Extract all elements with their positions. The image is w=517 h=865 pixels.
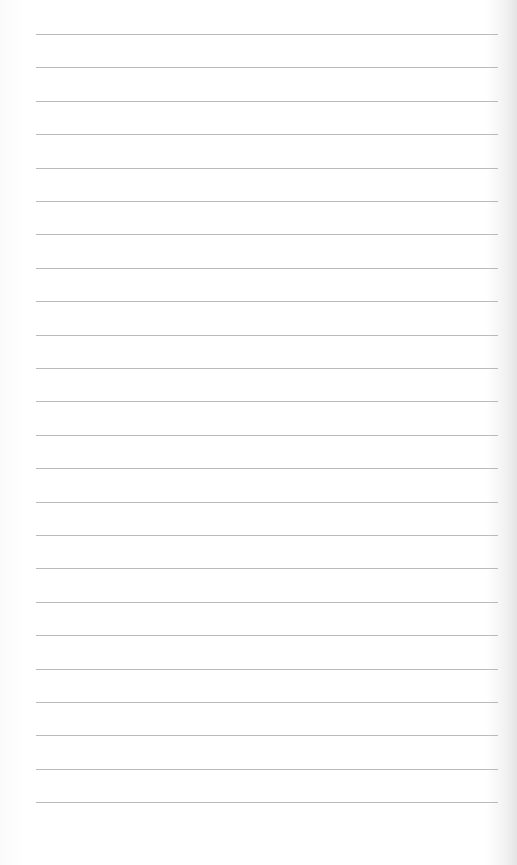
ruled-line	[36, 368, 498, 369]
ruled-line	[36, 669, 498, 670]
ruled-line	[36, 101, 498, 102]
ruled-line	[36, 67, 498, 68]
ruled-line	[36, 602, 498, 603]
ruled-line	[36, 134, 498, 135]
ruled-line	[36, 635, 498, 636]
ruled-line	[36, 502, 498, 503]
lined-paper	[0, 0, 517, 865]
ruled-line	[36, 769, 498, 770]
ruled-line	[36, 802, 498, 803]
ruled-line	[36, 234, 498, 235]
ruled-line	[36, 401, 498, 402]
ruled-line	[36, 468, 498, 469]
ruled-line	[36, 535, 498, 536]
ruled-line	[36, 335, 498, 336]
ruled-line	[36, 168, 498, 169]
ruled-line	[36, 301, 498, 302]
ruled-line	[36, 702, 498, 703]
ruled-line	[36, 34, 498, 35]
ruled-line	[36, 268, 498, 269]
ruled-line	[36, 201, 498, 202]
ruled-line	[36, 435, 498, 436]
ruled-line	[36, 568, 498, 569]
ruled-line	[36, 735, 498, 736]
